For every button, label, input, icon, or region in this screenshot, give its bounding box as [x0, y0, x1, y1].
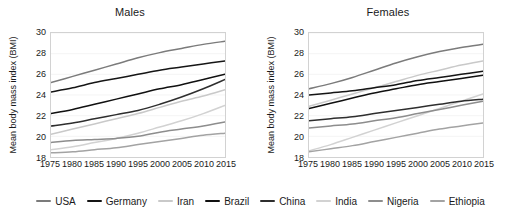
series-line-males-brazil [51, 74, 225, 113]
y-tick-males-26: 26 [22, 70, 46, 79]
series-line-males-iran [51, 90, 225, 134]
y-axis-label-females: Mean body mass index (BMI) [264, 32, 278, 158]
legend-item-brazil[interactable]: Brazil [205, 196, 249, 207]
series-line-males-usa [51, 41, 225, 82]
panel-females: Females Mean body mass index (BMI) 18202… [258, 0, 518, 180]
y-tick-males-28: 28 [22, 49, 46, 58]
legend-label-china: China [279, 196, 305, 207]
y-tick-females-30: 30 [280, 28, 304, 37]
y-tick-males-22: 22 [22, 112, 46, 121]
panel-females-title: Females [258, 6, 518, 18]
legend-item-ethiopia[interactable]: Ethiopia [430, 196, 485, 207]
legend-swatch-iran [158, 200, 173, 203]
panel-males: Males Mean body mass index (BMI) 1820222… [0, 0, 260, 180]
legend-swatch-india [316, 200, 331, 203]
legend-label-usa: USA [55, 196, 76, 207]
plot-svg-males [51, 33, 225, 157]
y-tick-males-20: 20 [22, 133, 46, 142]
y-tick-females-24: 24 [280, 91, 304, 100]
legend-item-usa[interactable]: USA [36, 196, 76, 207]
legend-item-china[interactable]: China [260, 196, 305, 207]
legend-item-nigeria[interactable]: Nigeria [368, 196, 419, 207]
series-line-males-germany [51, 61, 225, 92]
panel-males-title: Males [0, 6, 260, 18]
bmi-trend-figure: Males Mean body mass index (BMI) 1820222… [0, 0, 521, 224]
series-line-females-iran [309, 61, 483, 106]
series-line-females-nigeria [309, 101, 483, 128]
legend-swatch-ethiopia [430, 200, 445, 203]
legend-swatch-nigeria [368, 200, 383, 203]
plot-svg-females [309, 33, 483, 157]
legend-swatch-usa [36, 200, 51, 203]
legend-label-ethiopia: Ethiopia [449, 196, 485, 207]
y-axis-label-males: Mean body mass index (BMI) [6, 32, 20, 158]
legend-label-iran: Iran [177, 196, 194, 207]
legend-swatch-china [260, 200, 275, 203]
plot-area-males [50, 32, 226, 158]
legend-swatch-brazil [205, 200, 220, 203]
plot-area-females [308, 32, 484, 158]
chart-legend: USAGermanyIranBrazilChinaIndiaNigeriaEth… [0, 186, 521, 216]
y-tick-females-20: 20 [280, 133, 304, 142]
x-tick-females-2015: 2015 [467, 160, 501, 169]
y-tick-females-26: 26 [280, 70, 304, 79]
y-tick-females-28: 28 [280, 49, 304, 58]
series-line-males-nigeria [51, 122, 225, 143]
legend-item-germany[interactable]: Germany [87, 196, 147, 207]
y-tick-males-24: 24 [22, 91, 46, 100]
y-axis-label-males-text: Mean body mass index (BMI) [8, 36, 18, 153]
y-tick-females-22: 22 [280, 112, 304, 121]
x-tick-males-2015: 2015 [209, 160, 243, 169]
y-axis-label-females-text: Mean body mass index (BMI) [266, 36, 276, 153]
series-line-females-ethiopia [309, 123, 483, 152]
legend-swatch-germany [87, 200, 102, 203]
legend-item-iran[interactable]: Iran [158, 196, 194, 207]
y-tick-males-30: 30 [22, 28, 46, 37]
legend-label-india: India [335, 196, 357, 207]
legend-label-nigeria: Nigeria [387, 196, 419, 207]
legend-item-india[interactable]: India [316, 196, 357, 207]
legend-label-brazil: Brazil [224, 196, 249, 207]
legend-label-germany: Germany [106, 196, 147, 207]
